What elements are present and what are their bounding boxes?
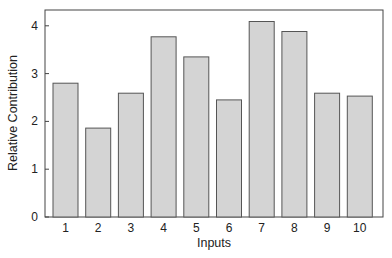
x-tick-label: 2 [95,221,102,235]
y-tick-label: 2 [31,114,38,128]
x-tick-label: 4 [160,221,167,235]
bar-chart: 01234 12345678910 Inputs Relative Contri… [0,0,392,258]
x-tick-label: 7 [258,221,265,235]
x-tick-label: 5 [193,221,200,235]
bar-1 [53,83,78,217]
bar-6 [217,100,242,217]
x-tick-label: 6 [226,221,233,235]
x-tick-label: 10 [353,221,367,235]
bars [53,22,372,218]
x-tick-label: 9 [324,221,331,235]
y-tick-label: 4 [31,19,38,33]
y-axis-title: Relative Contribution [6,55,20,171]
bar-7 [249,22,274,218]
bar-9 [315,93,340,217]
x-axis-ticks: 12345678910 [62,221,367,235]
y-axis-ticks: 01234 [31,19,49,224]
bar-5 [184,57,209,217]
bar-3 [118,93,143,217]
bar-4 [151,37,176,217]
bar-2 [86,128,111,217]
y-tick-label: 3 [31,67,38,81]
y-tick-label: 1 [31,162,38,176]
x-axis-title: Inputs [197,236,231,250]
x-tick-label: 3 [128,221,135,235]
x-tick-label: 8 [291,221,298,235]
bar-8 [282,32,307,218]
y-tick-label: 0 [31,210,38,224]
x-tick-label: 1 [62,221,69,235]
bar-10 [347,96,372,217]
